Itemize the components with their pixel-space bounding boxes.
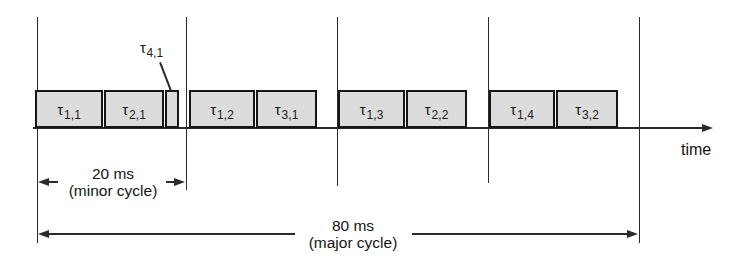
task-box-tau-1-1: τ1,1	[35, 90, 103, 128]
task-label: τ1,3	[360, 101, 383, 118]
task-label: τ1,2	[210, 101, 233, 118]
task-label: τ3,2	[575, 101, 598, 118]
cycle-boundary-line-80ms	[639, 17, 641, 243]
task-box-tau-4-1	[165, 90, 179, 128]
task-label: τ1,4	[510, 101, 533, 118]
major-cycle-duration: 80 ms	[286, 217, 420, 234]
callout-label-tau-4-1: τ4,1	[140, 39, 163, 56]
task-box-tau-1-3: τ1,3	[338, 90, 405, 128]
minor-cycle-duration: 20 ms	[46, 165, 180, 182]
schedule-diagram: time τ1,1 τ2,1 τ1,2 τ3,1 τ1,3 τ2,2 τ1,4 …	[0, 0, 744, 264]
task-label: τ2,1	[122, 101, 145, 118]
task-box-tau-3-1: τ3,1	[256, 90, 317, 128]
major-cycle-annotation: 80 ms (major cycle)	[286, 217, 420, 251]
time-axis-arrowhead-icon	[702, 124, 713, 132]
task-box-tau-2-1: τ2,1	[104, 90, 164, 128]
cycle-boundary-line-0ms	[37, 17, 39, 243]
major-cycle-left-shaft	[47, 233, 295, 235]
task-box-tau-3-2: τ3,2	[556, 90, 618, 128]
task-box-tau-1-2: τ1,2	[189, 90, 255, 128]
task-label: τ1,1	[57, 101, 80, 118]
minor-cycle-caption: (minor cycle)	[46, 182, 180, 199]
time-axis-label: time	[681, 141, 727, 159]
task-box-tau-2-2: τ2,2	[406, 90, 467, 128]
major-cycle-right-arrowhead-icon	[627, 230, 638, 238]
task-label: τ3,1	[275, 101, 298, 118]
task-label: τ2,2	[425, 101, 448, 118]
task-box-tau-1-4: τ1,4	[489, 90, 555, 128]
major-cycle-caption: (major cycle)	[286, 234, 420, 251]
cycle-boundary-line-20ms	[186, 17, 188, 190]
major-cycle-right-shaft	[412, 233, 628, 235]
minor-cycle-annotation: 20 ms (minor cycle)	[46, 165, 180, 199]
callout-pointer-line	[159, 62, 171, 91]
